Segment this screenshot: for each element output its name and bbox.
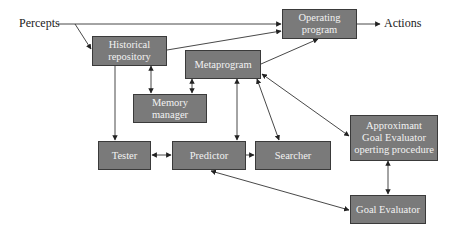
actions-label: Actions: [384, 16, 421, 31]
metaprogram-node: Metaprogram: [185, 50, 261, 79]
goal-evaluator-node: Goal Evaluator: [350, 195, 426, 224]
operating-program-node: Operating program: [282, 9, 357, 39]
edge-metaprogram-searcher: [257, 79, 279, 140]
approximant-goal-evaluator-node: Approximant Goal Evaluator operting proc…: [350, 115, 438, 161]
edge-predictor-goalevaluator: [211, 171, 349, 210]
percepts-label: Percepts: [19, 16, 60, 31]
searcher-node: Searcher: [255, 141, 331, 170]
historical-repository-node: Historical repository: [92, 36, 167, 66]
edge-metaprogram-operating: [261, 39, 318, 64]
edge-percepts-historical: [75, 24, 91, 49]
edge-metaprogram-approximant: [262, 74, 349, 136]
predictor-node: Predictor: [172, 141, 246, 170]
tester-node: Tester: [98, 141, 151, 170]
edge-historical-operating: [167, 31, 281, 50]
memory-manager-node: Memory manager: [133, 94, 207, 123]
